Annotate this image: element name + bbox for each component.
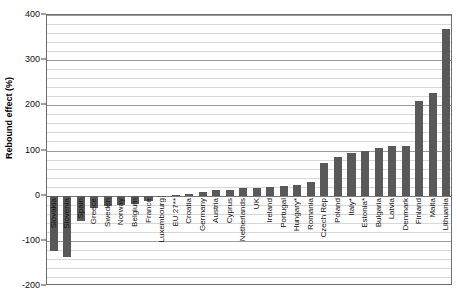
bar	[307, 182, 315, 196]
plot-area	[46, 14, 452, 285]
bar	[347, 153, 355, 196]
bar	[375, 148, 383, 195]
bar	[442, 29, 450, 195]
bar	[415, 101, 423, 196]
bar	[104, 196, 112, 206]
bar	[402, 146, 410, 196]
y-axis-tick-label: 200	[25, 99, 40, 109]
bar	[266, 187, 274, 196]
bar	[334, 157, 342, 195]
y-axis-tick-label: 100	[25, 145, 40, 155]
bar	[77, 196, 85, 222]
bar	[117, 196, 125, 205]
bar	[226, 190, 234, 196]
bar	[429, 93, 437, 196]
bar	[131, 196, 139, 204]
bar	[361, 151, 369, 195]
rebound-effect-bar-chart: Rebound effect (%) 4003002001000-100-200…	[0, 0, 457, 301]
bar	[172, 195, 180, 196]
bar	[293, 185, 301, 196]
bar	[253, 188, 261, 196]
bar	[185, 194, 193, 196]
y-axis-tick-label: -100	[22, 235, 40, 245]
bar-series	[47, 15, 451, 284]
y-axis-tick-label: 300	[25, 54, 40, 64]
bar	[320, 163, 328, 196]
bar	[199, 192, 207, 196]
bar	[50, 196, 58, 252]
y-axis-tick-labels: 4003002001000-100-200	[0, 0, 46, 301]
bar	[158, 196, 166, 198]
bar	[280, 186, 288, 196]
y-axis-tick-label: -200	[22, 280, 40, 290]
bar	[90, 196, 98, 209]
y-axis-tick-label: 0	[35, 190, 40, 200]
bar	[63, 196, 71, 257]
bar	[239, 188, 247, 196]
bar	[388, 146, 396, 196]
bar	[144, 196, 152, 201]
y-axis-tick-label: 400	[25, 9, 40, 19]
bar	[212, 190, 220, 195]
